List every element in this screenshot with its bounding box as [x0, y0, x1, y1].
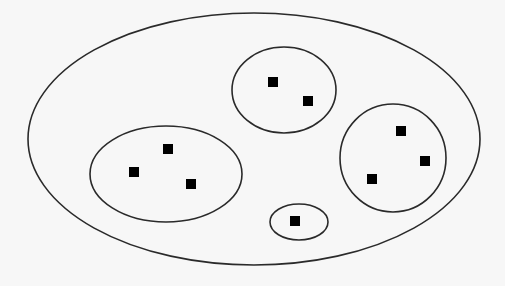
point-marker: [303, 96, 313, 106]
point-marker: [268, 77, 278, 87]
point-marker: [420, 156, 430, 166]
outer-set-ellipse: [28, 13, 480, 265]
point-marker: [396, 126, 406, 136]
cluster-right-ellipse: [340, 104, 446, 212]
point-marker: [367, 174, 377, 184]
point-marker: [129, 167, 139, 177]
point-marker: [186, 179, 196, 189]
cluster-left-ellipse: [90, 126, 242, 222]
cluster-top-ellipse: [232, 47, 336, 133]
set-diagram: [0, 0, 505, 286]
point-marker: [290, 216, 300, 226]
point-marker: [163, 144, 173, 154]
